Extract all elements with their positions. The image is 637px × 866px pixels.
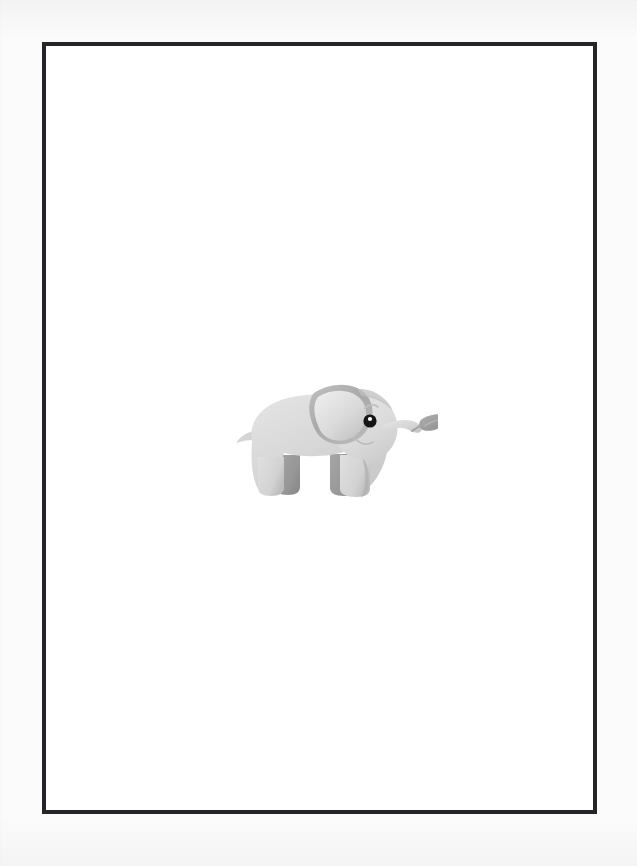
scanned-page — [0, 0, 637, 866]
elephant-front-legs-group — [258, 455, 370, 497]
elephant-leaf-blade-shape — [419, 414, 438, 430]
elephant-front-leg-far-shape — [258, 457, 284, 496]
elephant-illustration — [218, 359, 438, 509]
scan-grain-top — [0, 0, 637, 40]
illustration-border-frame — [42, 42, 597, 814]
illustration-canvas — [46, 46, 593, 810]
scan-grain-bottom — [0, 814, 637, 866]
elephant-tail-shape — [236, 431, 254, 443]
illustration-caption — [46, 783, 593, 784]
elephant-eye-group — [363, 414, 376, 427]
elephant-eye-highlight-shape — [368, 417, 372, 421]
